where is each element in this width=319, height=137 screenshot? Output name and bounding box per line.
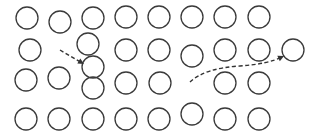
lattice-defect-diagram <box>0 0 319 137</box>
